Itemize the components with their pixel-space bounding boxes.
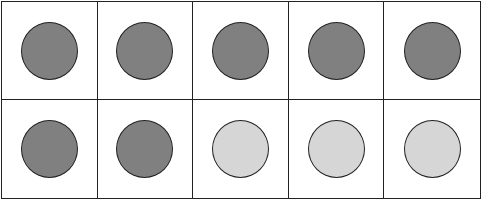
frame-cell <box>98 100 194 198</box>
light-counter-icon <box>308 120 365 178</box>
dark-counter-icon <box>404 22 461 80</box>
frame-cell <box>98 2 194 100</box>
light-counter-icon <box>212 120 269 178</box>
frame-cell <box>289 2 385 100</box>
frame-cell <box>2 2 98 100</box>
dark-counter-icon <box>116 120 173 178</box>
light-counter-icon <box>404 120 461 178</box>
dark-counter-icon <box>116 22 173 80</box>
frame-cell <box>193 100 289 198</box>
frame-cell <box>2 100 98 198</box>
dark-counter-icon <box>308 22 365 80</box>
frame-cell <box>384 100 480 198</box>
dark-counter-icon <box>21 22 78 80</box>
frame-cell <box>193 2 289 100</box>
dark-counter-icon <box>212 22 269 80</box>
ten-frame <box>1 1 481 199</box>
dark-counter-icon <box>21 120 78 178</box>
frame-cell <box>289 100 385 198</box>
frame-cell <box>384 2 480 100</box>
